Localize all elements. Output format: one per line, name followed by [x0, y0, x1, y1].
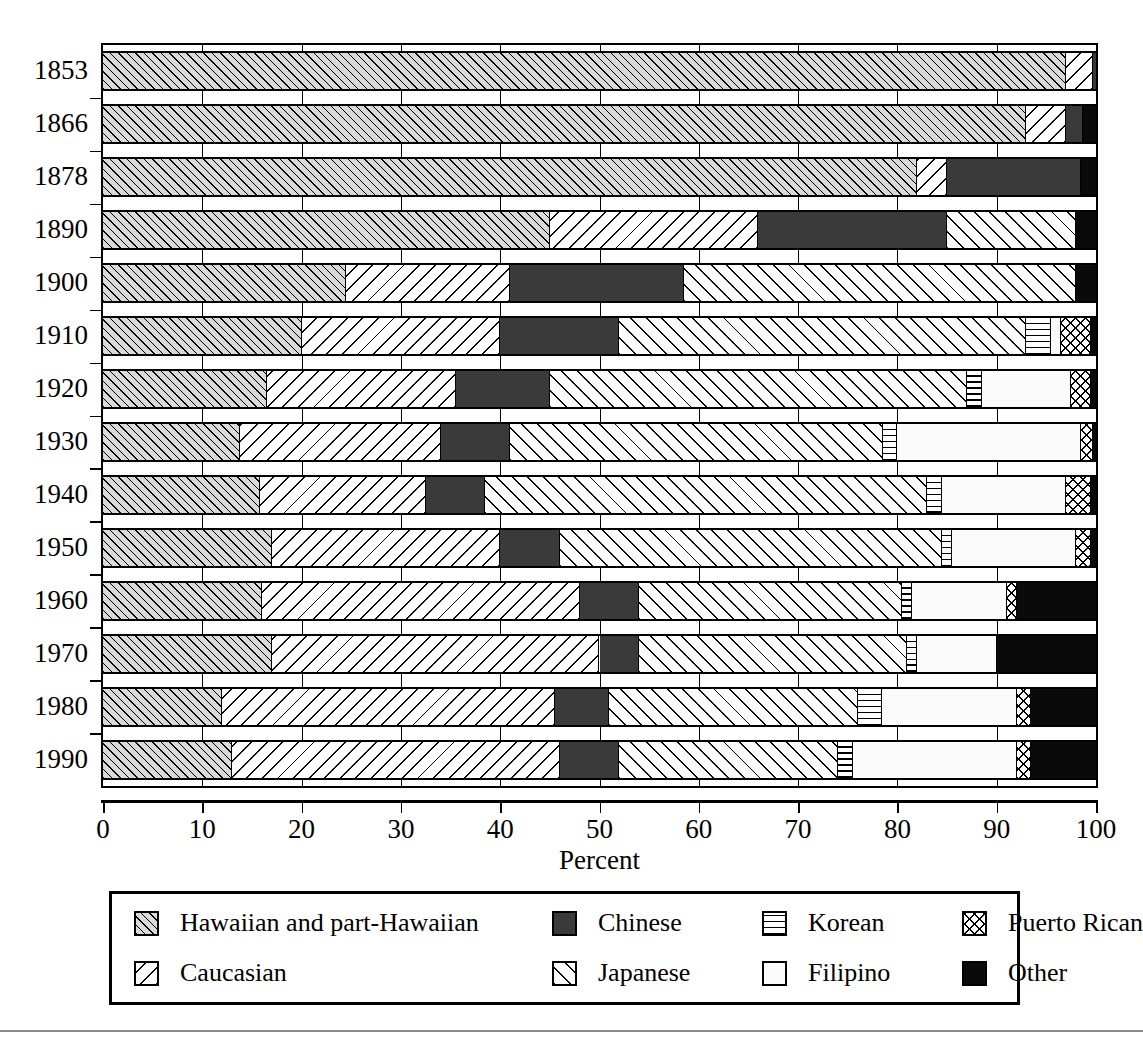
x-tick-10 — [202, 802, 204, 813]
legend-item-filipino[interactable]: Filipino — [762, 952, 890, 994]
segment-puerto-rican — [1066, 477, 1091, 513]
y-tick-label-1900: 1900 — [0, 269, 88, 296]
x-tick-40 — [500, 802, 502, 813]
y-tick-1980 — [90, 680, 101, 682]
x-tick-70 — [798, 802, 800, 813]
segment-other — [1031, 689, 1096, 725]
x-tick-50 — [600, 802, 602, 813]
segment-filipino — [912, 583, 1006, 619]
segment-puerto-rican — [1076, 530, 1091, 566]
segment-caucasian — [267, 371, 456, 407]
legend-swatch-icon — [962, 911, 987, 936]
y-tick-label-1878: 1878 — [0, 163, 88, 190]
bar-row — [103, 316, 1096, 356]
segment-korean — [858, 689, 883, 725]
segment-hawaiian-and-part-hawaiian — [103, 742, 232, 778]
segment-hawaiian-and-part-hawaiian — [103, 477, 260, 513]
y-tick-1866 — [90, 98, 101, 100]
bottom-rule — [0, 1030, 1143, 1032]
legend-item-chinese[interactable]: Chinese — [552, 902, 682, 944]
bar-row — [103, 157, 1096, 197]
y-tick-1878 — [90, 151, 101, 153]
legend-item-korean[interactable]: Korean — [762, 902, 885, 944]
segment-korean — [907, 636, 917, 672]
segment-filipino — [982, 371, 1071, 407]
x-tick-30 — [401, 802, 403, 813]
segment-other — [1091, 477, 1096, 513]
legend-item-japanese[interactable]: Japanese — [552, 952, 690, 994]
legend-label: Filipino — [808, 960, 890, 986]
segment-caucasian — [550, 212, 759, 248]
segment-other — [1076, 265, 1096, 301]
x-tick-100 — [1096, 802, 1098, 813]
stacked-bar-1890 — [103, 210, 1096, 250]
segment-chinese — [500, 318, 619, 354]
legend-item-hawaiian-and-part-hawaiian[interactable]: Hawaiian and part-Hawaiian — [134, 902, 479, 944]
segment-korean — [883, 424, 898, 460]
x-tick-label-60: 60 — [659, 814, 739, 845]
legend-swatch-icon — [552, 911, 577, 936]
y-tick-1970 — [90, 627, 101, 629]
legend-item-caucasian[interactable]: Caucasian — [134, 952, 287, 994]
segment-japanese — [639, 636, 907, 672]
y-tick-1950 — [90, 521, 101, 523]
segment-other — [1076, 212, 1096, 248]
segment-chinese — [580, 583, 640, 619]
segment-chinese — [510, 265, 684, 301]
x-tick-label-50: 50 — [560, 814, 640, 845]
y-tick-1900 — [90, 257, 101, 259]
stacked-bar-1990 — [103, 740, 1096, 780]
segment-japanese — [619, 318, 1026, 354]
segment-other — [1083, 106, 1096, 142]
bar-row — [103, 740, 1096, 780]
legend-swatch-icon — [552, 961, 577, 986]
bar-row — [103, 581, 1096, 621]
x-axis-title: Percent — [101, 845, 1098, 876]
segment-caucasian — [222, 689, 555, 725]
x-tick-0 — [103, 802, 105, 813]
segment-other — [1091, 371, 1096, 407]
segment-caucasian — [1026, 106, 1066, 142]
legend-label: Korean — [808, 910, 885, 936]
y-tick-1990 — [90, 733, 101, 735]
legend-item-other[interactable]: Other — [962, 952, 1067, 994]
y-tick-1920 — [90, 363, 101, 365]
y-tick-1960 — [90, 574, 101, 576]
segment-korean — [902, 583, 912, 619]
y-tick-label-1930: 1930 — [0, 428, 88, 455]
x-tick-label-20: 20 — [262, 814, 342, 845]
segment-caucasian — [260, 477, 426, 513]
bar-row — [103, 263, 1096, 303]
segment-japanese — [510, 424, 882, 460]
segment-filipino — [883, 689, 1017, 725]
segment-other — [1017, 583, 1096, 619]
segment-hawaiian-and-part-hawaiian — [103, 53, 1066, 89]
segment-hawaiian-and-part-hawaiian — [103, 318, 302, 354]
stacked-bar-1960 — [103, 581, 1096, 621]
segment-hawaiian-and-part-hawaiian — [103, 530, 272, 566]
x-tick-label-30: 30 — [361, 814, 441, 845]
y-tick-1910 — [90, 310, 101, 312]
segment-other — [1031, 742, 1096, 778]
segment-hawaiian-and-part-hawaiian — [103, 583, 262, 619]
legend-label: Caucasian — [180, 960, 287, 986]
y-tick-label-1866: 1866 — [0, 110, 88, 137]
segment-chinese — [456, 371, 550, 407]
y-tick-label-1970: 1970 — [0, 640, 88, 667]
segment-japanese — [550, 371, 967, 407]
bar-row — [103, 687, 1096, 727]
segment-japanese — [609, 689, 857, 725]
segment-chinese — [555, 689, 610, 725]
y-tick-label-1920: 1920 — [0, 375, 88, 402]
segment-caucasian — [346, 265, 510, 301]
legend-label: Hawaiian and part-Hawaiian — [180, 910, 479, 936]
segment-japanese — [684, 265, 1076, 301]
segment-puerto-rican — [1017, 742, 1032, 778]
segment-filipino — [853, 742, 1017, 778]
legend-label: Puerto Rican — [1008, 910, 1143, 936]
y-tick-1890 — [90, 204, 101, 206]
segment-other — [1093, 424, 1096, 460]
x-tick-20 — [302, 802, 304, 813]
legend-item-puerto-rican[interactable]: Puerto Rican — [962, 902, 1143, 944]
segment-caucasian — [302, 318, 501, 354]
